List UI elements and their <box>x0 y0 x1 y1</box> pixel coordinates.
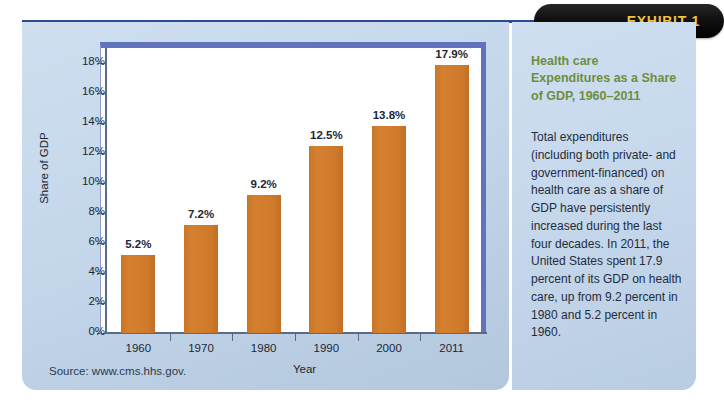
bar <box>372 126 406 333</box>
bar <box>247 195 281 333</box>
x-axis-tick <box>420 334 421 341</box>
bar <box>435 65 469 334</box>
x-axis-tick-label: 2000 <box>354 342 424 354</box>
exhibit-title: Health care Expenditures as a Share of G… <box>531 53 677 105</box>
y-axis-tick-label: 0% <box>45 325 105 337</box>
x-axis-tick-label: 1990 <box>291 342 361 354</box>
y-axis-title: Share of GDP <box>38 98 50 238</box>
bar-value-label: 12.5% <box>291 129 361 141</box>
bar-value-label: 17.9% <box>417 48 487 60</box>
source-note: Source: www.cms.hhs.gov. <box>49 365 186 377</box>
chart-panel: 0%2%4%6%8%10%12%14%16%18% 5.2%7.2%9.2%12… <box>22 22 509 390</box>
x-axis-line <box>105 332 487 334</box>
bar <box>309 146 343 334</box>
y-axis-tick-label: 4% <box>45 265 105 277</box>
y-axis-tick-label: 10% <box>45 175 105 187</box>
x-axis-title-text: Year <box>293 363 316 375</box>
x-axis-tick-label: 1960 <box>103 342 173 354</box>
x-axis-tick <box>295 334 296 341</box>
y-axis-tick-label: 12% <box>45 145 105 157</box>
y-axis-line <box>105 48 107 334</box>
y-axis-tick-label: 18% <box>45 55 105 67</box>
bar-value-label: 5.2% <box>103 238 173 250</box>
exhibit-body-text: Total expenditures (including both priva… <box>531 129 683 342</box>
x-axis-tick-label: 1970 <box>166 342 236 354</box>
bar-value-label: 7.2% <box>166 208 236 220</box>
y-axis-tick-label: 14% <box>45 115 105 127</box>
exhibit-text-panel: Health care Expenditures as a Share of G… <box>512 22 696 390</box>
y-axis-tick-label: 6% <box>45 235 105 247</box>
bar <box>121 255 155 333</box>
y-axis-tick-label: 8% <box>45 205 105 217</box>
x-axis-tick-label: 2011 <box>417 342 487 354</box>
x-axis-tick <box>232 334 233 341</box>
y-axis-tick-label: 2% <box>45 295 105 307</box>
bar-value-label: 13.8% <box>354 109 424 121</box>
x-axis-tick-label: 1980 <box>229 342 299 354</box>
x-axis-tick <box>358 334 359 341</box>
bar-value-label: 9.2% <box>229 178 299 190</box>
x-axis-tick <box>170 334 171 341</box>
y-axis-tick-label: 16% <box>45 85 105 97</box>
bar <box>184 225 218 333</box>
